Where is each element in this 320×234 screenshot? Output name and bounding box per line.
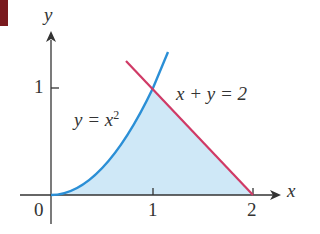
x-tick-label-2: 2: [247, 199, 257, 221]
y-tick-label-1: 1: [34, 76, 44, 98]
line-label: x + y = 2: [176, 83, 247, 105]
x-tick-label-1: 1: [148, 199, 158, 221]
y-axis-label: y: [44, 4, 52, 26]
curve-label: y = x2: [74, 108, 119, 131]
origin-label: 0: [34, 199, 44, 221]
x-axis-label: x: [287, 180, 295, 202]
curve-label-lhs: y = x: [74, 109, 113, 130]
curve-label-exponent: 2: [113, 108, 119, 122]
